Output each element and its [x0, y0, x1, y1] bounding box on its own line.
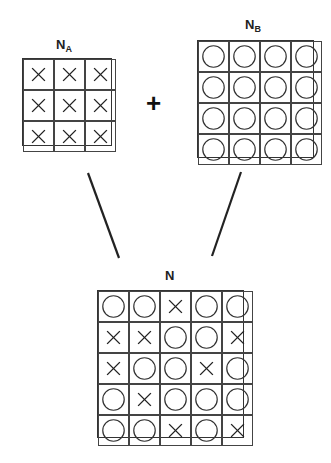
connector-line-left — [88, 173, 119, 258]
connector-line-right — [212, 172, 241, 256]
connector-lines — [0, 0, 331, 463]
